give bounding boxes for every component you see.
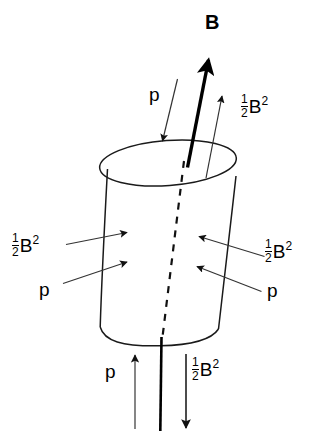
b-field-arrow xyxy=(188,60,209,168)
bottom-magnetic-pressure-label: 1 2 B2 xyxy=(192,357,219,383)
top-magnetic-pressure-label: 1 2 B2 xyxy=(241,94,268,120)
left-magnetic-pressure-label: 1 2 B2 xyxy=(12,233,39,259)
right-pressure-label: p xyxy=(267,281,278,300)
cylinder-right-wall xyxy=(219,176,237,329)
top-pressure-label: p xyxy=(149,85,160,104)
bottom-pressure-label: p xyxy=(105,362,116,381)
cylinder-top-ellipse xyxy=(98,136,238,191)
flux-tube-diagram xyxy=(0,0,327,441)
top-pressure-arrow xyxy=(163,79,178,141)
fraction-one-half: 1 2 xyxy=(12,232,19,258)
left-magnetic-pressure-arrow xyxy=(66,233,127,245)
cylinder-body xyxy=(98,136,238,346)
left-pressure-arrow xyxy=(63,262,127,284)
left-pressure-label: p xyxy=(39,280,50,299)
fraction-one-half: 1 2 xyxy=(241,93,248,119)
fraction-one-half: 1 2 xyxy=(192,356,199,382)
cylinder-bottom-arc xyxy=(100,327,218,346)
cylinder-axis-solid xyxy=(160,337,161,431)
b-field-label: B xyxy=(205,12,219,32)
fraction-one-half: 1 2 xyxy=(265,238,272,264)
cylinder-left-wall xyxy=(100,169,107,327)
top-magnetic-pressure-arrow xyxy=(206,96,222,178)
right-pressure-arrow xyxy=(197,267,262,292)
right-magnetic-pressure-label: 1 2 B2 xyxy=(265,239,292,265)
right-magnetic-pressure-arrow xyxy=(199,237,265,257)
cylinder-axis-dashed xyxy=(162,161,184,341)
